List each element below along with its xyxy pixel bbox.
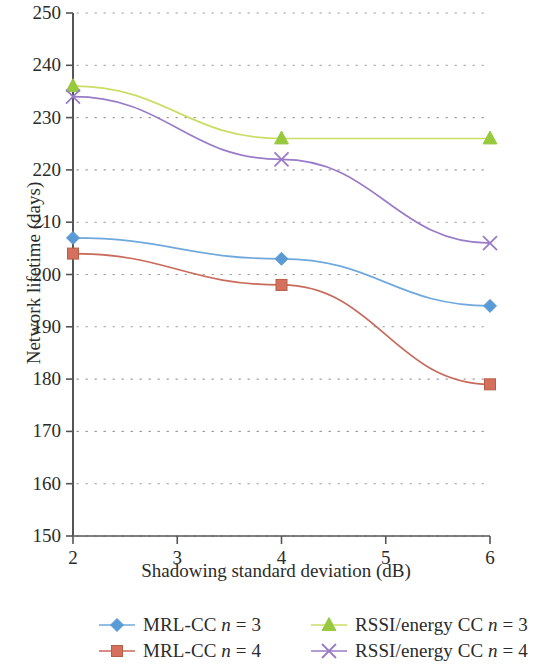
gridlines <box>77 13 487 536</box>
y-tick-250: 250 <box>15 3 61 22</box>
legend-triangle-icon <box>310 616 348 634</box>
series-2 <box>66 79 497 144</box>
legend-label-1: MRL-CC n = 4 <box>143 640 261 662</box>
series-0 <box>67 231 497 312</box>
legend-item-0[interactable]: MRL-CC n = 3 <box>98 614 310 636</box>
legend-item-1[interactable]: MRL-CC n = 4 <box>98 640 310 662</box>
legend-label-0: MRL-CC n = 3 <box>143 614 261 636</box>
y-tick-160: 160 <box>15 474 61 493</box>
legend-label-2: RSSI/energy CC n = 3 <box>355 614 528 636</box>
chart-legend: MRL-CC n = 3RSSI/energy CC n = 3MRL-CC n… <box>98 612 518 664</box>
x-axis-title: Shadowing standard deviation (dB) <box>60 560 492 582</box>
tick-marks <box>66 13 490 544</box>
series-layer <box>66 79 497 390</box>
line-chart-figure: 150160170180190200210220230240250 23456 … <box>0 0 542 668</box>
y-tick-230: 230 <box>15 108 61 127</box>
legend-item-3[interactable]: RSSI/energy CC n = 4 <box>310 640 518 662</box>
plot-area <box>0 0 542 560</box>
legend-square-icon <box>98 642 136 660</box>
legend-diamond-icon <box>98 616 136 634</box>
legend-cross-icon <box>310 642 348 660</box>
y-tick-170: 170 <box>15 421 61 440</box>
y-tick-240: 240 <box>15 55 61 74</box>
y-tick-150: 150 <box>15 526 61 545</box>
legend-item-2[interactable]: RSSI/energy CC n = 3 <box>310 614 518 636</box>
y-axis-title: Network lifetime (days) <box>23 143 45 403</box>
series-1 <box>68 248 496 390</box>
legend-label-3: RSSI/energy CC n = 4 <box>355 640 528 662</box>
